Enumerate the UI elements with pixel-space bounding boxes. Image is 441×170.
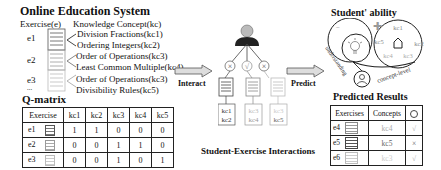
qmatrix-cell: 0 [130, 123, 152, 138]
qmatrix-cell: 0 [108, 123, 130, 138]
table-row: e5 kc5 × [331, 136, 423, 151]
kc-header: Knowledge Concept(kc) [73, 19, 161, 29]
ellipsis: ... [27, 84, 32, 92]
kc-label: kc1 [221, 107, 232, 115]
qmatrix-cell: 0 [152, 138, 174, 153]
ability-graphic: − ✚ kc1 kc2 kc3 kc4 kc5 understanding co… [320, 18, 441, 90]
qmatrix-cell: 0 [86, 138, 108, 153]
student-icon [410, 110, 418, 118]
qmatrix-title: Q-matrix [22, 93, 66, 105]
qmatrix-cell: 0 [130, 153, 152, 168]
concept-text: Divisibility Rules(kc5) [76, 85, 159, 95]
result-cell: √ [406, 121, 423, 136]
result-cell: √ [406, 151, 423, 166]
student-avatar-icon [354, 71, 370, 87]
exercise-cell: e6 [333, 153, 340, 162]
plus-sign: ✚ [373, 20, 382, 32]
qmatrix-cell: 1 [152, 153, 174, 168]
online-education-title: Online Education System [20, 4, 150, 19]
document-icon [345, 137, 358, 149]
document-icon [271, 78, 285, 96]
concept-text: Division Fractions(kc1) [77, 29, 163, 39]
bracket-icon [67, 55, 76, 67]
qmatrix-header: Exercise [23, 108, 64, 123]
student-icon-header [406, 106, 423, 121]
bracket-icon [67, 75, 76, 87]
ability-kc: kc5 [374, 38, 383, 45]
document-icon [345, 122, 358, 134]
qmatrix-header: kc5 [152, 108, 174, 123]
qmatrix-table: Exercise kc1 kc2 kc3 kc4 kc5 e1 1 1 0 0 … [22, 107, 174, 168]
predicted-header: Concepts [369, 106, 406, 121]
qmatrix-cell: 1 [130, 138, 152, 153]
ability-kc: kc4 [383, 52, 393, 59]
qmatrix-cell: 1 [108, 138, 130, 153]
ability-kc: kc1 [393, 24, 402, 31]
table-row: e3 0 0 1 0 1 [23, 153, 174, 168]
exercise-label: e1 [27, 33, 36, 43]
ability-kc: kc3 [403, 52, 412, 59]
interact-label: Interact [178, 79, 206, 88]
qmatrix-cell: 1 [86, 123, 108, 138]
kc-label: kc4 [248, 116, 259, 124]
document-icon [48, 29, 65, 50]
response-mark: √ [245, 62, 250, 71]
document-icon [219, 78, 233, 96]
predicted-table: Exercises Concepts e4 kc4 √ e5 kc5 × e6 … [330, 105, 423, 166]
table-row: e6 kc3 √ [331, 151, 423, 166]
qmatrix-header: kc3 [108, 108, 130, 123]
qmatrix-header: kc1 [64, 108, 86, 123]
document-icon [246, 78, 260, 96]
diagram-root: Online Education System Exercise(e) Know… [0, 0, 441, 170]
predicted-header: Exercises [331, 106, 369, 121]
concept-text: Ordering Integers(kc2) [77, 40, 160, 50]
qmatrix-cell: 0 [86, 153, 108, 168]
document-icon [48, 70, 65, 91]
concept-text: Least Common Multiple(kc4) [76, 62, 183, 72]
qmatrix-header-row: Exercise kc1 kc2 kc3 kc4 kc5 [23, 108, 174, 123]
understanding-circle [342, 34, 370, 62]
response-mark: × [228, 62, 233, 71]
kc-label: kc2 [221, 116, 232, 124]
qmatrix-header: kc2 [86, 108, 108, 123]
minus-sign: − [336, 24, 340, 32]
document-icon [45, 155, 55, 166]
exercise-cell: e4 [333, 123, 340, 132]
student-head-icon [241, 25, 253, 37]
concept-text: Order of Operations(kc3) [76, 51, 167, 61]
kc-label: kc5 [273, 116, 284, 124]
concept-text: Order of Operations(kc3) [76, 74, 167, 84]
document-icon [345, 152, 358, 164]
document-icon [48, 50, 65, 70]
ability-title: Student' ability [331, 7, 397, 18]
interactions-caption: Student-Exercise Interactions [201, 146, 315, 156]
exercise-cell: e2 [28, 140, 36, 149]
exercise-cell: e1 [28, 125, 36, 134]
table-row: e4 kc4 √ [331, 121, 423, 136]
exercise-label: e2 [27, 55, 36, 65]
concept-cell: kc3 [369, 151, 406, 166]
kc-label: kc3 [273, 107, 284, 115]
table-row: e2 0 0 1 1 0 [23, 138, 174, 153]
response-mark: × [262, 62, 267, 71]
interact-arrow-icon [174, 64, 214, 78]
qmatrix-cell: 0 [64, 138, 86, 153]
qmatrix-cell: 0 [152, 123, 174, 138]
qmatrix-header: kc4 [130, 108, 152, 123]
qmatrix-cell: 1 [108, 153, 130, 168]
table-row: e1 1 1 0 0 0 [23, 123, 174, 138]
bracket-icon [67, 34, 76, 46]
result-cell: × [406, 136, 423, 151]
concept-cell: kc4 [369, 121, 406, 136]
qmatrix-cell: 1 [64, 123, 86, 138]
predicted-title: Predicted Results [333, 91, 408, 102]
exercise-stack-graphic [46, 28, 78, 92]
predicted-header-row: Exercises Concepts [331, 106, 423, 121]
concept-cell: kc5 [369, 136, 406, 151]
document-icon [45, 140, 55, 151]
predict-label: Predict [291, 79, 316, 88]
kc-label: kc3 [248, 107, 259, 115]
qmatrix-cell: 0 [64, 153, 86, 168]
exercise-cell: e3 [28, 155, 36, 164]
exercise-cell: e5 [333, 138, 340, 147]
